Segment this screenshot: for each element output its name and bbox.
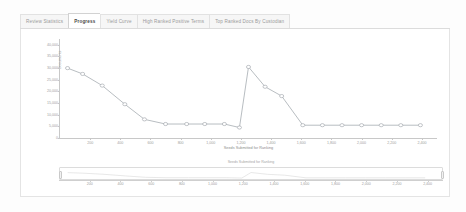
tab-top-ranked-docs-by-custodian[interactable]: Top Ranked Docs By Custodian <box>209 14 290 28</box>
navigator-tick-label: 1,400 <box>270 182 279 186</box>
chart-series-line <box>60 39 437 138</box>
chart-x-tick-label: 1,000 <box>206 141 215 145</box>
chart-data-point[interactable] <box>418 124 422 127</box>
chart-x-axis-title: Seeds Submitted for Ranking <box>224 146 273 150</box>
chart-data-point[interactable] <box>142 118 146 121</box>
chart-navigator[interactable]: Seeds Submitted for Ranking 200400600800… <box>59 163 443 191</box>
navigator-tick-label: 1,200 <box>239 182 248 186</box>
navigator-tick-mark <box>120 180 121 182</box>
chart-data-point[interactable] <box>280 94 284 97</box>
chart-x-tick-label: 1,400 <box>267 141 276 145</box>
progress-chart: Documents Seeds Submitted for Ranking 40… <box>29 35 443 157</box>
chart-data-point[interactable] <box>123 103 127 106</box>
chart-x-tick-label: 800 <box>178 141 184 145</box>
navigator-tick-label: 2,000 <box>362 182 371 186</box>
chart-x-tick-mark <box>331 138 332 140</box>
chart-y-tick-mark <box>58 68 60 69</box>
chart-data-point[interactable] <box>81 72 85 75</box>
tab-label: High Ranked Positive Terms <box>143 19 205 24</box>
navigator-tick-mark <box>305 180 306 182</box>
chart-data-point[interactable] <box>222 122 226 125</box>
chart-x-tick-label: 2,400 <box>417 141 426 145</box>
chart-data-point[interactable] <box>263 85 267 88</box>
chart-y-tick-mark <box>58 115 60 116</box>
tab-panel-progress: Documents Seeds Submitted for Ranking 40… <box>20 29 450 197</box>
chart-y-tick-label: 20,000 <box>47 89 58 93</box>
tab-yield-curve[interactable]: Yield Curve <box>100 14 136 28</box>
chart-data-point[interactable] <box>360 124 364 127</box>
chart-x-tick-mark <box>301 138 302 140</box>
chart-data-point[interactable] <box>379 124 383 127</box>
chart-y-tick-label: 30,000 <box>47 66 58 70</box>
navigator-tick-label: 2,200 <box>392 182 401 186</box>
chart-y-tick-label: 40,000 <box>47 43 58 47</box>
navigator-axis-line <box>59 180 443 181</box>
navigator-tick-mark <box>213 180 214 182</box>
navigator-left-handle[interactable] <box>59 171 62 179</box>
navigator-tick-mark <box>182 180 183 182</box>
chart-x-tick-label: 1,600 <box>297 141 306 145</box>
chart-x-tick-mark <box>120 138 121 140</box>
navigator-tick-label: 2,400 <box>423 182 432 186</box>
chart-y-tick-mark <box>58 56 60 57</box>
tab-bar: Review Statistics Progress Yield Curve H… <box>20 14 450 29</box>
tab-progress[interactable]: Progress <box>68 13 100 28</box>
chart-data-point[interactable] <box>185 122 189 125</box>
chart-x-tick-mark <box>422 138 423 140</box>
navigator-tick-mark <box>243 180 244 182</box>
chart-data-point[interactable] <box>65 67 69 70</box>
chart-x-tick-mark <box>271 138 272 140</box>
chart-y-tick-label: 10,000 <box>47 113 58 117</box>
navigator-tick-label: 1,000 <box>208 182 217 186</box>
chart-y-tick-mark <box>58 138 60 139</box>
chart-x-tick-label: 200 <box>87 141 93 145</box>
chart-data-point[interactable] <box>203 122 207 125</box>
navigator-right-handle[interactable] <box>441 171 444 179</box>
chart-data-point[interactable] <box>163 122 167 125</box>
chart-plot-area[interactable]: Documents Seeds Submitted for Ranking 40… <box>59 39 437 139</box>
navigator-tick-mark <box>90 180 91 182</box>
tab-review-statistics[interactable]: Review Statistics <box>20 14 68 28</box>
tab-label: Review Statistics <box>26 19 63 24</box>
chart-y-tick-label: 5,000 <box>49 124 58 128</box>
navigator-tick-label: 400 <box>117 182 123 186</box>
navigator-tick-mark <box>335 180 336 182</box>
chart-x-tick-mark <box>90 138 91 140</box>
chart-y-tick-label: 15,000 <box>47 101 58 105</box>
chart-x-tick-mark <box>150 138 151 140</box>
chart-x-tick-label: 400 <box>117 141 123 145</box>
chart-x-tick-label: 2,000 <box>357 141 366 145</box>
chart-data-point[interactable] <box>320 124 324 127</box>
progress-chart-page: Review Statistics Progress Yield Curve H… <box>0 0 466 212</box>
chart-data-point[interactable] <box>301 124 305 127</box>
chart-x-tick-mark <box>362 138 363 140</box>
navigator-preview-series <box>60 168 442 179</box>
chart-x-tick-label: 600 <box>147 141 153 145</box>
chart-x-tick-mark <box>211 138 212 140</box>
chart-x-tick-mark <box>392 138 393 140</box>
navigator-tick-label: 200 <box>87 182 93 186</box>
chart-data-point[interactable] <box>237 126 241 129</box>
navigator-tick-mark <box>428 180 429 182</box>
chart-y-tick-label: 25,000 <box>47 78 58 82</box>
navigator-tick-mark <box>151 180 152 182</box>
chart-data-point[interactable] <box>340 124 344 127</box>
navigator-tick-label: 600 <box>148 182 154 186</box>
chart-data-point[interactable] <box>246 65 250 68</box>
tab-label: Top Ranked Docs By Custodian <box>215 19 284 24</box>
navigator-tick-mark <box>366 180 367 182</box>
tab-label: Yield Curve <box>106 19 131 24</box>
chart-y-tick-mark <box>58 126 60 127</box>
chart-data-point[interactable] <box>399 124 403 127</box>
chart-x-tick-label: 1,200 <box>236 141 245 145</box>
navigator-title: Seeds Submitted for Ranking <box>228 160 275 164</box>
chart-y-tick-mark <box>58 91 60 92</box>
chart-data-point[interactable] <box>100 84 104 87</box>
navigator-tick-label: 800 <box>179 182 185 186</box>
tab-high-ranked-positive-terms[interactable]: High Ranked Positive Terms <box>137 14 210 28</box>
chart-x-tick-label: 2,200 <box>387 141 396 145</box>
tab-label: Progress <box>74 19 95 24</box>
navigator-range-box[interactable] <box>59 167 443 180</box>
chart-x-tick-mark <box>181 138 182 140</box>
chart-x-tick-label: 1,800 <box>327 141 336 145</box>
